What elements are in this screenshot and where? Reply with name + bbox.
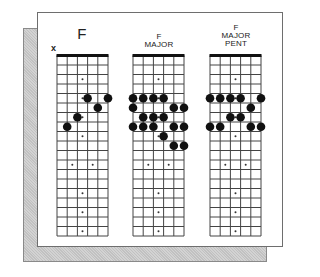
fret-marker	[235, 135, 237, 137]
note-dot	[104, 94, 113, 103]
note-dot	[170, 103, 179, 112]
note-dot	[257, 94, 266, 103]
note-dot	[216, 122, 225, 131]
fret-marker	[245, 164, 247, 166]
note-dot	[180, 141, 189, 150]
fret-marker	[158, 135, 160, 137]
fretboard-grid	[205, 50, 268, 240]
note-dot	[247, 103, 256, 112]
fretboard-major-scale	[128, 50, 191, 240]
fret-marker	[158, 192, 160, 194]
title-line: F	[62, 26, 102, 41]
note-dot	[63, 122, 72, 131]
fret-marker	[82, 78, 84, 80]
fret-marker	[82, 116, 84, 118]
note-dot	[206, 122, 215, 131]
fret-marker	[235, 116, 237, 118]
fret-marker	[158, 211, 160, 213]
note-dot	[180, 103, 189, 112]
note-dot	[139, 94, 148, 103]
note-dot	[216, 94, 225, 103]
note-dot	[226, 113, 235, 122]
note-dot	[257, 122, 266, 131]
fretboard-chord	[52, 50, 115, 240]
title-line: PENT	[205, 40, 267, 48]
fret-marker	[168, 164, 170, 166]
fretboard-major-pentatonic	[205, 50, 268, 240]
diagram-title-chord: F	[62, 26, 102, 41]
note-dot	[159, 132, 168, 141]
fret-marker	[158, 97, 160, 99]
fret-marker	[158, 116, 160, 118]
note-dot	[149, 113, 158, 122]
diagram-title-major-pentatonic: F MAJOR PENT	[205, 24, 267, 48]
note-dot	[149, 122, 158, 131]
note-dot	[206, 94, 215, 103]
note-dot	[139, 122, 148, 131]
note-dot	[94, 103, 103, 112]
note-dot	[159, 94, 168, 103]
fret-marker	[235, 211, 237, 213]
fret-marker	[92, 164, 94, 166]
note-dot	[83, 94, 92, 103]
fret-marker	[147, 164, 149, 166]
note-dot	[73, 113, 82, 122]
note-dot	[236, 113, 245, 122]
note-dot	[129, 122, 138, 131]
fret-marker	[235, 78, 237, 80]
fret-marker	[235, 230, 237, 232]
note-dot	[129, 103, 138, 112]
note-dot	[247, 122, 256, 131]
fretboard-grid	[128, 50, 191, 240]
fret-marker	[82, 230, 84, 232]
note-dot	[129, 94, 138, 103]
fret-marker	[224, 164, 226, 166]
title-line: MAJOR	[128, 41, 190, 49]
fret-marker	[71, 164, 73, 166]
note-dot	[149, 94, 158, 103]
fret-marker	[82, 192, 84, 194]
fretboard-grid	[52, 50, 115, 240]
fret-marker	[82, 97, 84, 99]
note-dot	[159, 113, 168, 122]
note-dot	[180, 122, 189, 131]
note-dot	[226, 94, 235, 103]
fret-marker	[158, 78, 160, 80]
fret-marker	[235, 97, 237, 99]
fret-marker	[82, 135, 84, 137]
note-dot	[139, 113, 148, 122]
fret-marker	[158, 230, 160, 232]
note-dot	[236, 94, 245, 103]
fret-marker	[235, 192, 237, 194]
fret-marker	[82, 211, 84, 213]
note-dot	[170, 122, 179, 131]
note-dot	[170, 141, 179, 150]
diagram-title-major-scale: F MAJOR	[128, 33, 190, 49]
